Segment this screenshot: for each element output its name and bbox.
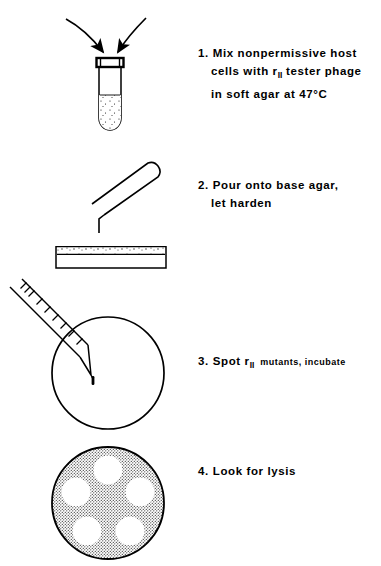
step-2-number: 2. bbox=[198, 176, 209, 194]
step-4-number: 4. bbox=[198, 462, 209, 480]
step-1-line-2: cells with rII tester phage bbox=[198, 62, 362, 85]
petri-dish-outline bbox=[52, 317, 164, 429]
lysis-zone-top bbox=[94, 456, 122, 484]
illustration-spot-plate bbox=[10, 279, 164, 429]
lysis-zone-upper-right bbox=[126, 478, 154, 506]
lysis-zone-lower-left bbox=[73, 517, 101, 545]
pipette-band-mark bbox=[25, 287, 31, 293]
step-4-caption: 4.Look for lysis bbox=[198, 462, 296, 480]
step-3-caption: 3.Spot rIImutants, incubate bbox=[198, 352, 346, 375]
illustration-test-tube bbox=[66, 18, 146, 132]
step-1-text-2-post: tester phage bbox=[282, 65, 361, 77]
lysis-zone-lower-right bbox=[116, 517, 144, 545]
step-1-line-3: in soft agar at 47°C bbox=[198, 85, 362, 103]
step-1-caption: 1.Mix nonpermissive host cells with rII … bbox=[198, 44, 362, 103]
arrow-right bbox=[118, 18, 146, 52]
spot-drop bbox=[92, 376, 95, 385]
step-2-line-2: let harden bbox=[198, 194, 339, 212]
illustration-base-agar-dish bbox=[56, 246, 166, 268]
step-4-text-1: Look for lysis bbox=[213, 465, 296, 477]
pipette-edge-upper bbox=[10, 287, 80, 357]
illustration-lysis-plate bbox=[52, 447, 164, 559]
step-1-text-2-pre: cells with r bbox=[211, 65, 278, 77]
arrow-left bbox=[66, 19, 103, 52]
illustration-pour bbox=[92, 163, 160, 233]
step-2-caption: 2.Pour onto base agar, let harden bbox=[198, 176, 339, 212]
agar-layer bbox=[57, 247, 165, 254]
step-3-line-1: 3.Spot rIImutants, incubate bbox=[198, 352, 346, 375]
step-2-line-1: 2.Pour onto base agar, bbox=[198, 176, 339, 194]
step-2-text-1: Pour onto base agar, bbox=[213, 179, 339, 191]
pour-tube-body bbox=[92, 163, 160, 215]
step-1-text-1: Mix nonpermissive host bbox=[213, 47, 357, 59]
step-4-line-1: 4.Look for lysis bbox=[198, 462, 296, 480]
step-1-line-1: 1.Mix nonpermissive host bbox=[198, 44, 362, 62]
lysis-zone-upper-left bbox=[62, 478, 90, 506]
pipette-edge-lower bbox=[22, 279, 88, 345]
step-3-text-small: mutants, incubate bbox=[260, 357, 346, 367]
step-1-number: 1. bbox=[198, 44, 209, 62]
step-3-text-main: Spot r bbox=[213, 355, 250, 367]
step-3-number: 3. bbox=[198, 352, 209, 370]
pour-tube-spout bbox=[99, 215, 104, 233]
step-3-subscript: II bbox=[250, 361, 255, 370]
